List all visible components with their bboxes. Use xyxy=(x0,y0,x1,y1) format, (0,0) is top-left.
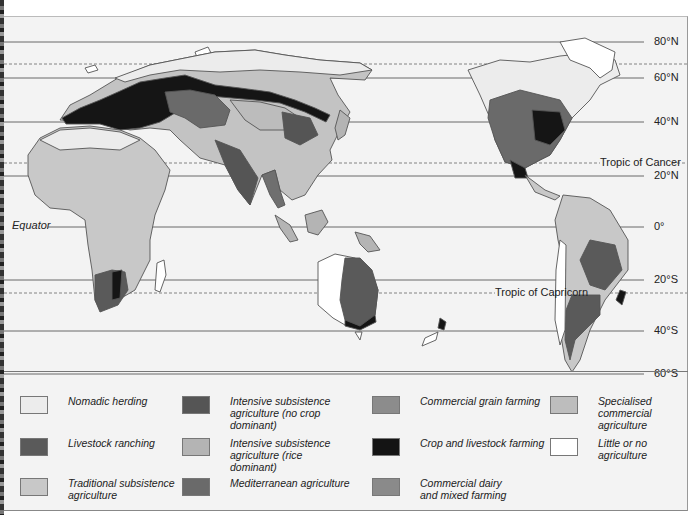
legend-swatch xyxy=(20,478,48,496)
legend-swatch xyxy=(182,438,210,456)
legend-item-intensive-rice: Intensive subsistence agriculture (rice … xyxy=(182,438,350,473)
label-20n: 20°N xyxy=(654,169,679,181)
legend-item-mediterranean: Mediterranean agriculture xyxy=(182,478,350,496)
label-60n: 60°N xyxy=(654,71,679,83)
legend-item-commercial-grain: Commercial grain farming xyxy=(372,396,540,414)
legend-item-crop-livestock: Crop and livestock farming xyxy=(372,438,544,456)
legend-item-intensive-no-crop: Intensive subsistence agriculture (no cr… xyxy=(182,396,365,431)
legend-swatch xyxy=(550,438,578,456)
label-0: 0° xyxy=(654,220,665,232)
legend-item-commercial-dairy: Commercial dairy and mixed farming xyxy=(372,478,520,501)
legend-swatch xyxy=(372,478,400,496)
legend-item-nomadic-herding: Nomadic herding xyxy=(20,396,147,414)
legend-item-livestock-ranching: Livestock ranching xyxy=(20,438,155,456)
legend-swatch xyxy=(20,396,48,414)
legend-swatch xyxy=(182,478,210,496)
label-tropic-of-cancer: Tropic of Cancer xyxy=(600,156,681,168)
legend-swatch xyxy=(372,396,400,414)
legend-swatch xyxy=(550,396,578,414)
label-80n: 80°N xyxy=(654,35,679,47)
label-equator: Equator xyxy=(12,219,51,231)
legend: Nomadic herding Livestock ranching Tradi… xyxy=(4,372,687,509)
landmasses xyxy=(28,38,628,372)
legend-item-traditional-subsistence: Traditional subsistence agriculture xyxy=(20,478,198,501)
label-40s: 40°S xyxy=(654,324,678,336)
legend-item-specialised-commercial: Specialised commercial agriculture xyxy=(550,396,660,431)
legend-item-little-or-no-agriculture: Little or no agriculture xyxy=(550,438,660,461)
legend-swatch xyxy=(20,438,48,456)
legend-swatch xyxy=(182,396,210,414)
label-20s: 20°S xyxy=(654,273,678,285)
legend-swatch xyxy=(372,438,400,456)
label-40n: 40°N xyxy=(654,115,679,127)
label-tropic-of-capricorn: Tropic of Capricorn xyxy=(495,286,588,298)
